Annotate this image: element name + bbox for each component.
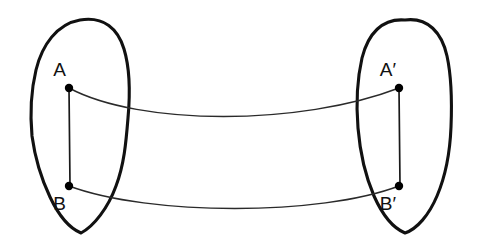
segment-Aprime-Bprime xyxy=(399,88,400,186)
right-blob-outline xyxy=(357,20,451,233)
mapping-curve-A-to-Aprime xyxy=(69,88,399,117)
point-Aprime-dot xyxy=(395,84,403,92)
diagram-canvas: A B A′ B′ xyxy=(0,0,478,246)
point-label-Aprime: A′ xyxy=(380,59,397,80)
diagram-svg: A B A′ B′ xyxy=(0,0,478,246)
point-A-dot xyxy=(65,84,73,92)
point-label-B: B xyxy=(53,193,66,214)
point-label-A: A xyxy=(53,59,66,80)
mapping-curve-B-to-Bprime xyxy=(69,186,399,209)
segment-A-B xyxy=(69,88,70,186)
point-B-dot xyxy=(65,182,73,190)
point-label-Bprime: B′ xyxy=(380,193,397,214)
labels-group: A B A′ B′ xyxy=(53,59,396,214)
points-group xyxy=(65,84,403,190)
point-Bprime-dot xyxy=(395,182,403,190)
mapping-curves-group xyxy=(69,88,399,209)
left-blob-outline xyxy=(31,19,129,233)
